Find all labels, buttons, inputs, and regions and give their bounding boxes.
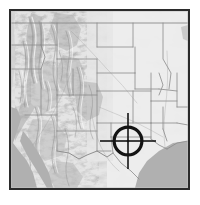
shaded-relief-map[interactable] (11, 11, 188, 188)
map-frame[interactable] (9, 9, 190, 190)
location-map-widget[interactable] (0, 0, 200, 205)
